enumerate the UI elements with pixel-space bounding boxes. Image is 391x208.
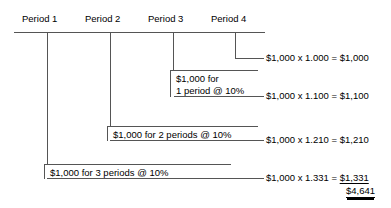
- period-label-4: Period 4: [211, 13, 246, 24]
- callout-three-periods: $1,000 for 3 periods @ 10%: [45, 165, 231, 178]
- formula-period-1-prefix: $1,000 x 1.331 =: [266, 172, 340, 183]
- callout-one-period-line-2: 1 period @ 10%: [176, 85, 254, 97]
- period-label-3: Period 3: [148, 13, 183, 24]
- formula-period-4: $1,000 x 1.000 = $1,000: [266, 52, 369, 64]
- formula-period-3: $1,000 x 1.100 = $1,100: [266, 90, 369, 102]
- callout-one-period-line-1: $1,000 for: [176, 73, 254, 85]
- callout-two-periods-line-1: $1,000 for 2 periods @ 10%: [113, 129, 254, 141]
- formula-period-1-value: $1,331: [340, 172, 369, 183]
- period-label-2: Period 2: [85, 13, 120, 24]
- callout-one-period: $1,000 for 1 period @ 10%: [171, 71, 258, 96]
- compound-interest-timeline-diagram: Period 1 Period 2 Period 3 Period 4 $1,0…: [0, 0, 391, 208]
- grand-total-value: $4,641: [346, 185, 375, 198]
- period-label-1: Period 1: [22, 13, 57, 24]
- callout-two-periods: $1,000 for 2 periods @ 10%: [108, 127, 258, 140]
- callout-three-periods-line-1: $1,000 for 3 periods @ 10%: [50, 167, 227, 179]
- grand-total: $4,641: [346, 185, 375, 198]
- formula-period-2: $1,000 x 1.210 = $1,210: [266, 134, 369, 146]
- formula-period-1: $1,000 x 1.331 = $1,331: [266, 172, 369, 184]
